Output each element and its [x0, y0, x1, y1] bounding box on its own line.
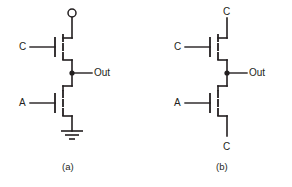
caption-a: (a) [62, 162, 74, 172]
gate-label-c-top-a: C [19, 42, 26, 52]
circuit-a-group [30, 9, 92, 139]
gate-label-c-top-b: C [174, 42, 181, 52]
circuit-figure: C A Out (a) C C A Out C (b) [0, 0, 292, 187]
output-label-a: Out [94, 68, 110, 78]
gate-label-a-bottom-b: A [174, 98, 181, 108]
bottom-terminal-label-c-b: C [223, 142, 230, 152]
gate-label-a-bottom-a: A [19, 98, 26, 108]
output-label-b: Out [249, 68, 265, 78]
circuit-b-group [185, 18, 247, 136]
top-terminal-label-c-b: C [223, 7, 230, 17]
supply-terminal-circle-icon [68, 9, 76, 17]
circuit-schematic-drawing [0, 0, 292, 187]
caption-b: (b) [216, 162, 228, 172]
